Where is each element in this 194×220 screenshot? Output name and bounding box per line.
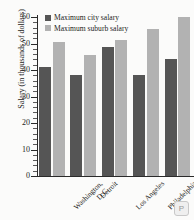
- bar-city-4: [165, 59, 177, 176]
- x-axis-line: [37, 176, 194, 177]
- x-label-2: Los Angeles: [134, 179, 166, 211]
- plot-area: [37, 17, 194, 176]
- bar-city-0: [39, 67, 51, 176]
- legend-label-suburb: Maximum suburb salary: [54, 24, 128, 34]
- bar-city-3: [133, 75, 145, 176]
- bar-suburb-4: [178, 17, 190, 176]
- legend-swatch-suburb-icon: [45, 25, 51, 31]
- y-tick-label-50: 50: [2, 40, 30, 48]
- y-tick-label-60: 60: [2, 13, 30, 21]
- bar-city-2: [102, 47, 114, 176]
- y-tick-label-40: 40: [2, 66, 30, 74]
- legend-label-city: Maximum city salary: [54, 13, 119, 23]
- legend-item-suburb: Maximum suburb salary: [45, 24, 128, 34]
- bar-suburb-2: [115, 40, 127, 176]
- y-tick-0: [31, 176, 37, 177]
- chart-legend: Maximum city salary Maximum suburb salar…: [45, 13, 128, 34]
- y-axis-tick-labels: 0102030405060: [0, 0, 30, 220]
- bar-suburb-1: [84, 55, 96, 176]
- bar-chart-figure: Salary (in thousands of dollars) 0102030…: [0, 0, 194, 220]
- legend-swatch-city-icon: [45, 15, 51, 21]
- y-tick-label-0: 0: [2, 172, 30, 180]
- y-tick-label-20: 20: [2, 119, 30, 127]
- y-tick-label-30: 30: [2, 93, 30, 101]
- bar-suburb-0: [53, 42, 65, 176]
- y-tick-label-10: 10: [2, 146, 30, 154]
- legend-item-city: Maximum city salary: [45, 13, 128, 23]
- corner-badge[interactable]: P: [174, 201, 189, 216]
- bar-city-1: [70, 75, 82, 176]
- bar-suburb-3: [147, 29, 159, 176]
